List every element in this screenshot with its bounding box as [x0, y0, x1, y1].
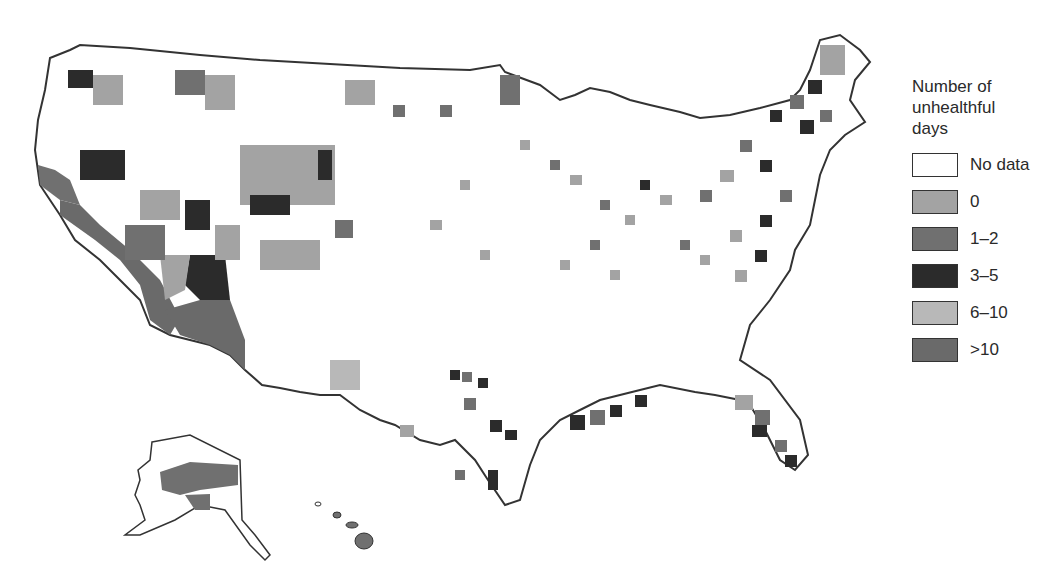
legend-item-3-5: 3–5: [912, 262, 1057, 290]
alaska: [125, 435, 270, 560]
hawaii-island-big: [355, 533, 373, 549]
region-nd-0: [345, 80, 375, 105]
hawaii: [315, 502, 373, 549]
legend-label: >10: [970, 340, 999, 360]
legend-item-1-2: 1–2: [912, 225, 1057, 253]
region-nevada-1-2: [125, 225, 165, 260]
region-utah-0: [215, 225, 240, 260]
legend-item-0: 0: [912, 188, 1057, 216]
swatch-1-2: [912, 227, 958, 251]
legend-label: 1–2: [970, 229, 998, 249]
swatch-0: [912, 190, 958, 214]
region-montana-1-2: [175, 70, 205, 95]
region-mn-1-2: [500, 75, 520, 105]
swatch-over-10: [912, 338, 958, 362]
legend-label: 6–10: [970, 303, 1008, 323]
legend-label: 0: [970, 192, 979, 212]
contiguous-us: [35, 35, 870, 505]
region-wyoming-3-5: [250, 195, 290, 215]
region-nevada-0: [140, 190, 180, 220]
hawaii-island-maui: [346, 522, 358, 528]
us-choropleth-map: [0, 0, 1060, 586]
region-colorado-1-2: [335, 220, 353, 238]
region-oregon-3-5: [80, 150, 125, 180]
swatch-3-5: [912, 264, 958, 288]
region-colorado-0: [260, 240, 320, 270]
region-nd-1-2b: [440, 105, 452, 117]
region-washington-3-5: [68, 70, 93, 88]
legend-label: No data: [970, 155, 1030, 175]
region-utah-3-5: [185, 200, 210, 230]
legend-item-6-10: 6–10: [912, 299, 1057, 327]
legend: Number of unhealthful days No data 0 1–2…: [912, 76, 1057, 373]
region-wyoming-3-5b: [318, 150, 332, 180]
hawaii-island-kauai: [315, 502, 321, 506]
legend-item-over-10: >10: [912, 336, 1057, 364]
swatch-no-data: [912, 153, 958, 177]
region-montana-0: [205, 75, 235, 110]
hawaii-island-oahu: [333, 512, 341, 518]
region-newmexico-6-10: [330, 360, 360, 390]
region-washington-0: [93, 75, 123, 105]
swatch-6-10: [912, 301, 958, 325]
legend-label: 3–5: [970, 266, 998, 286]
legend-item-no-data: No data: [912, 151, 1057, 179]
legend-title: Number of unhealthful days: [912, 76, 1012, 139]
region-nd-1-2: [393, 105, 405, 117]
